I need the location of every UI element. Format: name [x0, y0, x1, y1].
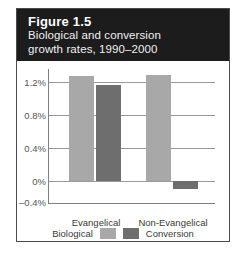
- chart-legend: Biological Conversion: [17, 224, 229, 242]
- legend-label-biological: Biological: [52, 228, 93, 239]
- bar-non-evangelical-conversion: [173, 181, 198, 189]
- figure-title-line-2: growth rates, 1990–2000: [28, 43, 229, 57]
- plot-area: Evangelical Non-Evangelical: [48, 71, 215, 203]
- figure-number: Figure 1.5: [28, 14, 229, 29]
- legend-label-conversion: Conversion: [146, 228, 194, 239]
- figure-header: Figure 1.5 Biological and conversion gro…: [17, 9, 229, 61]
- y-tick-label: 1.2%: [24, 77, 46, 88]
- y-axis-line: [48, 69, 49, 203]
- y-tick-label: 0.4%: [24, 143, 46, 154]
- x-axis-line: [48, 203, 215, 204]
- legend-swatch-biological: [100, 228, 116, 239]
- bar-evangelical-biological: [69, 76, 94, 181]
- bar-non-evangelical-biological: [146, 75, 171, 181]
- bar-evangelical-conversion: [96, 85, 121, 181]
- y-tick-label: –0.4%: [19, 197, 46, 208]
- y-axis-tick-labels: 1.2% 0.8% 0.4% 0% –0.4%: [17, 71, 46, 203]
- y-tick-label: 0.8%: [24, 110, 46, 121]
- figure-panel: Figure 1.5 Biological and conversion gro…: [16, 8, 230, 242]
- y-tick-label: 0%: [32, 176, 46, 187]
- figure-title-line-1: Biological and conversion: [28, 29, 229, 43]
- chart-area: 1.2% 0.8% 0.4% 0% –0.4% Evangelical Non-…: [17, 61, 229, 243]
- legend-swatch-conversion: [123, 228, 139, 239]
